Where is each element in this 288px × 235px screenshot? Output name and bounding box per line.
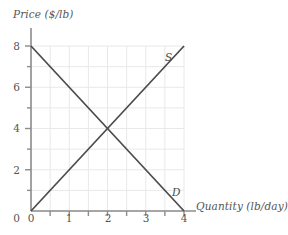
y-tick-label-8: 8 [4,40,20,52]
x-axis-title: Quantity (lb/day) [196,200,288,212]
x-tick-label-2: 2 [100,212,116,224]
y-axis-title: Price ($/lb) [13,8,74,20]
x-tick-label-4: 4 [176,212,192,224]
y-tick-label-6: 6 [4,81,20,93]
x-tick-label-1: 1 [61,212,77,224]
y-tick-label-4: 4 [4,122,20,134]
y-tick-label-0: 0 [4,212,20,224]
x-tick-label-3: 3 [138,212,154,224]
y-tick-label-2: 2 [4,164,20,176]
supply-curve-label: S [165,51,172,63]
x-tick-label-0: 0 [23,212,39,224]
demand-curve-label: D [172,186,180,198]
supply-demand-chart: Price ($/lb) Quantity (lb/day) 8 6 4 2 0… [0,0,288,235]
y-axis-ticks [25,46,31,190]
